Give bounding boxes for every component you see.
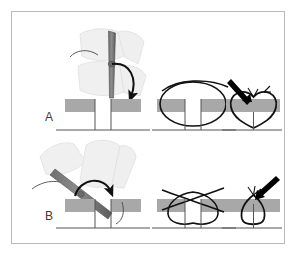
tissue-block-right-a xyxy=(111,99,141,112)
panel-a-step2 xyxy=(152,81,236,130)
tissue-band-right-a3 xyxy=(262,99,280,112)
tissue-block-left-a xyxy=(65,99,95,112)
panel-label-a: A xyxy=(45,110,53,124)
ghost-forceps-upper-left-b xyxy=(40,143,86,175)
tissue-block-right-b xyxy=(111,199,141,212)
panel-a-step3 xyxy=(222,79,282,130)
panel-b-step2 xyxy=(152,188,236,228)
figure-frame: A B xyxy=(11,11,285,244)
panel-b-step3 xyxy=(222,176,282,228)
tissue-block-left-b xyxy=(65,199,95,212)
panel-a-group xyxy=(56,29,282,130)
panel-label-b: B xyxy=(45,209,53,223)
tissue-band-left-b2 xyxy=(157,199,185,212)
panel-a-step1 xyxy=(56,29,150,130)
panel-b-group xyxy=(32,140,282,228)
